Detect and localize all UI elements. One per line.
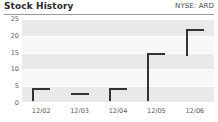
hlc-range-line — [186, 29, 188, 56]
hlc-range-line — [109, 88, 111, 101]
y-axis-tick-label: 15 — [11, 49, 19, 56]
plot-band — [22, 69, 214, 86]
plot-area — [22, 19, 214, 103]
x-axis-tick-label: 12/04 — [109, 107, 128, 115]
x-axis-tick-label: 12/03 — [70, 107, 89, 115]
header-divider — [4, 14, 214, 15]
y-axis-labels: 0510152025 — [0, 17, 22, 105]
x-axis-tick-label: 12/02 — [32, 107, 51, 115]
x-axis-tick-label: 12/05 — [147, 107, 166, 115]
y-axis-tick-label: 5 — [15, 83, 19, 90]
y-axis-tick-label: 20 — [11, 32, 19, 39]
stock-history-chart: 0510152025 12/0212/0312/0412/0512/06 — [0, 17, 218, 122]
y-axis-tick-label: 25 — [11, 16, 19, 23]
hlc-close-tick — [148, 53, 165, 55]
stock-history-widget: Stock History NYSE: ARD 0510152025 12/02… — [0, 0, 218, 122]
gridline — [22, 102, 214, 103]
y-axis-tick-label: 10 — [11, 66, 19, 73]
page-title: Stock History — [4, 1, 74, 12]
hlc-range-line — [32, 88, 34, 101]
hlc-close-tick — [110, 88, 127, 90]
hlc-close-tick — [72, 93, 89, 95]
x-axis-tick-label: 12/06 — [185, 107, 204, 115]
hlc-range-line — [147, 53, 149, 102]
y-axis-tick-label: 0 — [15, 100, 19, 107]
gridline — [22, 19, 214, 20]
x-axis-labels: 12/0212/0312/0412/0512/06 — [22, 107, 214, 119]
hlc-close-tick — [187, 29, 204, 31]
hlc-close-tick — [33, 88, 50, 90]
gridline — [22, 69, 214, 70]
ticker-symbol: NYSE: ARD — [175, 1, 214, 12]
